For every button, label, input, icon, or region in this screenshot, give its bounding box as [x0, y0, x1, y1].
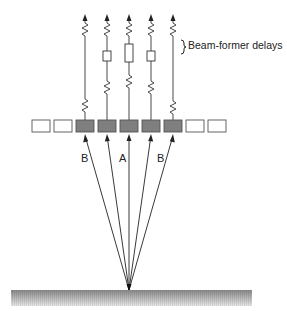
element-inactive	[32, 120, 50, 132]
arrow-up-icon	[127, 134, 132, 141]
ray-label-b-right: B	[157, 152, 164, 164]
ray-label-a: A	[119, 152, 127, 164]
element-active	[98, 120, 116, 132]
focal-point	[127, 284, 132, 291]
element-inactive	[186, 120, 204, 132]
delay-box-large	[125, 44, 133, 62]
arrow-up-icon	[149, 14, 154, 21]
element-active	[120, 120, 138, 132]
channel-4	[147, 14, 155, 120]
delay-box	[147, 51, 155, 61]
arrow-up-icon	[148, 134, 153, 142]
arrow-up-icon	[170, 134, 175, 143]
beamformer-delays-label: Beam-former delays	[188, 39, 283, 51]
arrow-up-icon	[127, 14, 132, 21]
element-active	[76, 120, 94, 132]
arrow-up-icon	[83, 134, 88, 143]
ground-surface	[11, 290, 252, 306]
delay-box	[103, 51, 111, 61]
element-active	[164, 120, 182, 132]
channel-3	[125, 14, 133, 120]
channel-1	[82, 14, 88, 120]
arrow-up-icon	[105, 134, 110, 142]
brace-icon	[181, 40, 186, 54]
arrow-up-icon	[105, 14, 110, 21]
element-active	[142, 120, 160, 132]
channel-5	[170, 14, 176, 120]
arrow-up-icon	[83, 14, 88, 21]
element-inactive	[208, 120, 226, 132]
arrow-up-icon	[171, 14, 176, 21]
channel-2	[103, 14, 111, 120]
transducer-array	[32, 120, 226, 132]
ray-label-b-left: B	[81, 152, 88, 164]
element-inactive	[54, 120, 72, 132]
